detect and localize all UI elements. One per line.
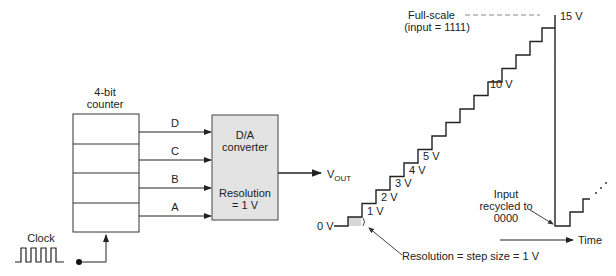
dac-staircase-diagram: 4-bit counter D C B A Clock D/A converte… [0,0,616,276]
time-axis-label: Time [578,234,602,246]
dac-resolution-1: Resolution [219,187,271,199]
vout-label: VOUT [327,168,351,183]
counter-title-1: 4-bit [94,86,115,98]
recycle-label-1: Input [494,188,518,200]
label-3v: 3 V [395,177,412,189]
bit-label-d: D [171,117,179,129]
bit-label-b: B [171,173,178,185]
label-0v: 0 V [317,220,334,232]
full-scale-label-2: (input = 1111) [404,21,470,33]
dac-block: D/A converter Resolution = 1 V VOUT [212,115,351,220]
dac-label-2: converter [222,141,268,153]
label-1v: 1 V [367,205,384,217]
full-scale-label-1: Full-scale [408,9,455,21]
counter-block: 4-bit counter [73,86,139,232]
dac-resolution-2: = 1 V [232,199,259,211]
label-2v: 2 V [381,191,398,203]
recycle-label-3: 0000 [494,212,518,224]
label-15v: 15 V [560,10,583,22]
bit-label-c: C [171,145,179,157]
clock: Clock [15,232,106,265]
bit-lines: D C B A [139,117,211,216]
dac-label-1: D/A [236,129,255,141]
clock-waveform-icon [15,248,64,262]
staircase-waveform: 0 V 1 V 2 V 3 V 4 V 5 V 10 V 15 V Full-s… [317,9,607,262]
recycle-label-2: recycled to [479,200,532,212]
bit-label-a: A [171,201,179,213]
label-5v: 5 V [423,150,440,162]
counter-title-2: counter [87,98,124,110]
label-10v: 10 V [490,78,513,90]
label-4v: 4 V [409,164,426,176]
clock-label: Clock [27,232,55,244]
resolution-note: Resolution = step size = 1 V [402,250,540,262]
